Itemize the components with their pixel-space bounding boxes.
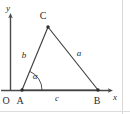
vertex-label-b: B bbox=[94, 95, 101, 106]
side-label-c: c bbox=[55, 93, 59, 103]
side-label-b: b bbox=[22, 50, 27, 60]
x-axis-label: x bbox=[112, 92, 117, 102]
origin-label: O bbox=[2, 95, 9, 106]
vertex-point-c bbox=[46, 25, 49, 28]
vertex-label-c: C bbox=[40, 10, 47, 21]
vertex-point-a bbox=[20, 88, 23, 91]
triangle-side-a bbox=[48, 27, 98, 90]
vertex-label-a: A bbox=[16, 95, 24, 106]
geometry-figure: y x C A B O b a c α bbox=[0, 0, 130, 114]
angle-label-alpha: α bbox=[33, 71, 38, 81]
triangle-diagram-canvas: y x C A B O b a c α bbox=[0, 0, 130, 114]
vertex-point-b bbox=[96, 88, 99, 91]
y-axis-label: y bbox=[5, 3, 10, 13]
side-label-a: a bbox=[77, 48, 82, 58]
